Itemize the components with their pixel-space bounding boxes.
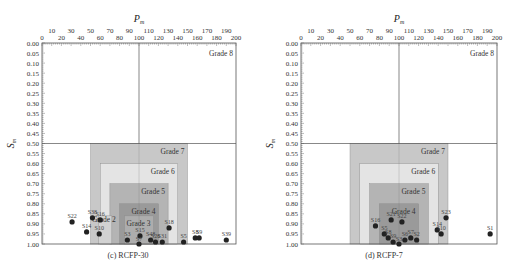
point-label: S10 — [95, 225, 104, 231]
x-tick-label: 110 — [404, 27, 415, 35]
y-tick-label: 0.65 — [286, 170, 299, 178]
y-tick-label: 0.15 — [286, 70, 299, 78]
y-tick-label: 0.55 — [27, 150, 40, 158]
data-point — [153, 239, 158, 244]
data-point — [125, 237, 130, 242]
y-tick-label: 0.90 — [286, 220, 299, 228]
scatter-plot-d: Grade 8Grade 7Grade 6Grade 5Grade 402040… — [256, 0, 513, 274]
point-label: S2 — [413, 231, 419, 237]
grade-label: Grade 5 — [141, 187, 165, 196]
x-tick-label: 30 — [68, 27, 76, 35]
x-tick-label: 120 — [413, 34, 424, 42]
x-tick-label: 0 — [40, 34, 44, 42]
data-point — [166, 225, 171, 230]
x-axis-title: Pm — [393, 13, 405, 25]
data-point — [389, 217, 394, 222]
y-tick-label: 0.90 — [27, 220, 40, 228]
y-tick-label: 0.35 — [286, 110, 299, 118]
grade-label: Grade 8 — [470, 49, 494, 58]
grade-label: Grade 7 — [161, 147, 185, 156]
y-tick-label: 0.20 — [27, 80, 40, 88]
y-tick-label: 0.25 — [27, 90, 40, 98]
y-tick-label: 0.20 — [286, 80, 299, 88]
data-point — [443, 215, 448, 220]
y-tick-label: 0.75 — [27, 190, 40, 198]
chart-caption: (c) RCFP-30 — [0, 251, 256, 260]
point-label: S15 — [135, 227, 144, 233]
x-tick-label: 140 — [173, 34, 184, 42]
point-label: S16 — [371, 217, 380, 223]
x-tick-label: 40 — [77, 34, 85, 42]
y-tick-label: 0.80 — [27, 200, 40, 208]
x-tick-label: 110 — [144, 27, 155, 35]
x-tick-label: 160 — [192, 34, 203, 42]
y-tick-label: 0.45 — [286, 130, 299, 138]
x-tick-label: 190 — [221, 27, 232, 35]
point-label: S21 — [386, 211, 395, 217]
y-tick-label: 0.25 — [286, 90, 299, 98]
data-point — [439, 231, 444, 236]
point-label: S39 — [222, 231, 231, 237]
y-tick-label: 0.70 — [286, 180, 299, 188]
x-tick-label: 60 — [97, 34, 105, 42]
data-point — [181, 239, 186, 244]
y-tick-label: 1.00 — [27, 241, 40, 249]
x-tick-label: 80 — [376, 34, 384, 42]
y-tick-label: 0.30 — [27, 100, 40, 108]
x-tick-label: 50 — [87, 27, 95, 35]
y-tick-label: 0.95 — [286, 230, 299, 238]
point-label: S7 — [136, 236, 142, 242]
data-point — [373, 223, 378, 228]
x-tick-label: 100 — [394, 34, 405, 42]
data-point — [402, 237, 407, 242]
grade-label: Grade 5 — [401, 187, 425, 196]
x-tick-label: 80 — [116, 34, 124, 42]
y-tick-label: 1.00 — [286, 241, 299, 249]
x-tick-label: 20 — [58, 34, 66, 42]
x-tick-label: 70 — [106, 27, 114, 35]
data-point — [396, 241, 401, 246]
x-tick-label: 20 — [317, 34, 325, 42]
chart-panel-d: Grade 8Grade 7Grade 6Grade 5Grade 402040… — [256, 0, 512, 274]
x-tick-label: 200 — [231, 34, 242, 42]
grade-label: Grade 7 — [421, 147, 445, 156]
point-label: S1 — [487, 225, 493, 231]
y-tick-label: 0.70 — [27, 180, 40, 188]
data-point — [136, 241, 141, 246]
point-label: S23 — [441, 209, 450, 215]
data-point — [84, 229, 89, 234]
y-tick-label: 0.85 — [286, 210, 299, 218]
y-tick-label: 0.45 — [27, 130, 40, 138]
y-tick-label: 0.85 — [27, 210, 40, 218]
point-label: S14 — [82, 223, 91, 229]
y-tick-label: 0.65 — [27, 170, 40, 178]
y-tick-label: 0.00 — [286, 40, 299, 48]
data-point — [69, 219, 74, 224]
x-tick-label: 60 — [356, 34, 364, 42]
x-tick-label: 150 — [182, 27, 193, 35]
y-axis-title: Sm — [5, 138, 17, 148]
data-point — [160, 239, 165, 244]
y-tick-label: 0.60 — [286, 160, 299, 168]
data-point — [90, 215, 95, 220]
grade-label: Grade 4 — [131, 207, 155, 216]
x-tick-label: 150 — [443, 27, 454, 35]
data-point — [197, 235, 202, 240]
x-tick-label: 90 — [386, 27, 394, 35]
x-tick-label: 50 — [347, 27, 355, 35]
x-tick-label: 130 — [423, 27, 434, 35]
x-tick-label: 0 — [299, 34, 303, 42]
point-label: S9 — [196, 229, 202, 235]
grade-label: Grade 6 — [411, 167, 435, 176]
data-point — [97, 231, 102, 236]
x-tick-label: 200 — [492, 34, 503, 42]
x-tick-label: 170 — [462, 27, 473, 35]
x-tick-label: 180 — [472, 34, 483, 42]
y-tick-label: 0.10 — [286, 60, 299, 68]
y-tick-label: 0.35 — [27, 110, 40, 118]
x-tick-label: 120 — [153, 34, 164, 42]
x-tick-label: 190 — [482, 27, 493, 35]
x-tick-label: 10 — [48, 27, 56, 35]
x-tick-label: 180 — [211, 34, 222, 42]
y-tick-label: 0.80 — [286, 200, 299, 208]
